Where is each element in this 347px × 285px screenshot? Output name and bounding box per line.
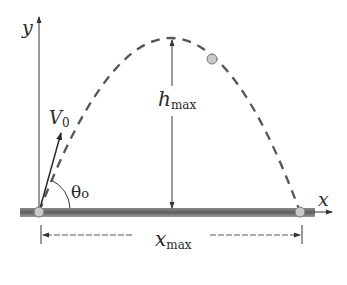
h-max-label: hmax bbox=[158, 87, 196, 112]
angle-arc bbox=[51, 180, 70, 208]
velocity-label: V0 bbox=[49, 107, 70, 130]
x-axis-label: x bbox=[318, 188, 329, 210]
x-max-label: xmax bbox=[155, 227, 192, 252]
ground-surface bbox=[20, 208, 315, 217]
launch-point-ball bbox=[34, 207, 44, 217]
y-axis-label: y bbox=[21, 16, 33, 38]
projectile-diagram: y x hmax V0 θo xmax bbox=[0, 0, 347, 285]
velocity-vector bbox=[39, 133, 61, 212]
projectile-ball bbox=[207, 54, 217, 64]
angle-label: θo bbox=[71, 182, 89, 202]
landing-point-ball bbox=[295, 207, 305, 217]
